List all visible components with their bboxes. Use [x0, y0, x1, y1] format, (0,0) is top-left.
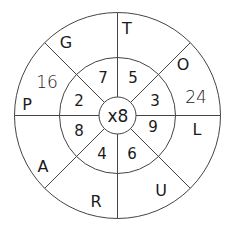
outer-letter: R — [90, 192, 101, 211]
divider-bottom-right — [131, 129, 191, 189]
inner-number: 2 — [74, 92, 84, 110]
inner-number: 9 — [148, 118, 158, 136]
multiplication-wheel: x8 5 3 9 6 4 8 2 7 T O L U R A P G 24 16 — [0, 0, 231, 251]
inner-number: 7 — [98, 69, 108, 87]
inner-number: 8 — [74, 122, 84, 140]
outer-letter: T — [121, 19, 132, 38]
answer-value: 16 — [36, 72, 58, 92]
outer-letter: A — [38, 157, 49, 176]
answer-value: 24 — [185, 87, 207, 107]
inner-number: 5 — [128, 69, 138, 87]
outer-letter: O — [177, 55, 190, 74]
outer-letter: L — [193, 120, 202, 139]
inner-number: 3 — [150, 92, 160, 110]
outer-letter: U — [155, 181, 167, 200]
outer-letter: G — [60, 33, 72, 52]
outer-letter: P — [22, 95, 32, 114]
center-label: x8 — [108, 106, 129, 126]
inner-number: 4 — [97, 145, 107, 163]
inner-number: 6 — [127, 145, 137, 163]
